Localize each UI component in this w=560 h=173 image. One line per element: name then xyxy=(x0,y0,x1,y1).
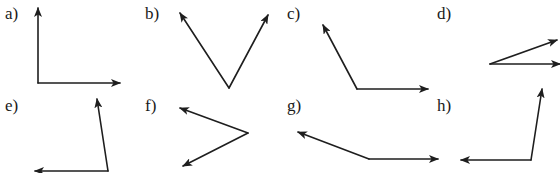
angle-c xyxy=(323,25,428,89)
panel-label-d: d) xyxy=(437,5,451,22)
ray-arrow-icon xyxy=(183,133,248,166)
angle-d xyxy=(490,40,560,64)
ray-arrow-icon xyxy=(298,132,369,159)
angle-f xyxy=(180,108,248,166)
ray-arrow-icon xyxy=(323,25,357,89)
ray-arrow-icon xyxy=(180,13,229,88)
angle-g xyxy=(298,132,438,159)
ray-arrow-icon xyxy=(490,40,557,64)
angle-a xyxy=(38,8,120,83)
ray-arrow-icon xyxy=(229,15,268,88)
panel-label-b: b) xyxy=(145,5,159,22)
panel-label-g: g) xyxy=(287,97,301,114)
ray-arrow-icon xyxy=(180,108,248,133)
ray-arrow-icon xyxy=(97,99,108,171)
angle-e xyxy=(35,99,108,171)
panel-label-f: f) xyxy=(145,97,156,114)
panel-label-e: e) xyxy=(5,97,18,114)
angle-h xyxy=(461,89,542,160)
angles-figure: a) b) c) d) e) f) g) h) xyxy=(0,0,560,173)
panel-label-a: a) xyxy=(5,5,18,22)
ray-arrow-icon xyxy=(531,89,542,160)
panel-label-h: h) xyxy=(437,97,451,114)
panel-label-c: c) xyxy=(287,5,300,22)
angle-b xyxy=(180,13,268,88)
angles-drawing xyxy=(0,0,560,173)
